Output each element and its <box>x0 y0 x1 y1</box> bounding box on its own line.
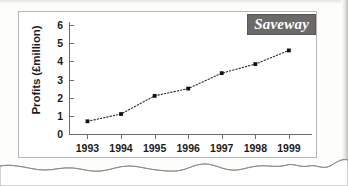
page-right-edge <box>341 0 348 168</box>
data-point-1995 <box>153 94 157 98</box>
data-point-1997 <box>220 71 224 75</box>
torn-paper-edge <box>0 154 348 186</box>
plot-area: Profits (£million) 0123456 1993199419951… <box>19 12 318 159</box>
data-point-1993 <box>86 119 90 123</box>
profits-markers <box>86 49 291 124</box>
data-point-1994 <box>119 112 123 116</box>
profits-line <box>87 50 288 121</box>
chart-title-badge: Saveway <box>247 14 316 35</box>
data-point-1999 <box>287 49 291 53</box>
chart-figure: Profits (£million) 0123456 1993199419951… <box>18 11 317 158</box>
scanned-page: Profits (£million) 0123456 1993199419951… <box>0 0 348 186</box>
data-point-1998 <box>253 62 257 66</box>
page-top-shadow <box>0 0 348 4</box>
data-point-1996 <box>186 87 190 91</box>
